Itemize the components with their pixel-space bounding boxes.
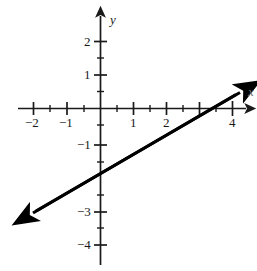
x-axis-label: x [248,85,254,98]
plotted-line-left-arrow [33,95,236,214]
x-tick-label-neg1: −1 [59,116,73,129]
y-tick-label-1: 1 [84,68,91,81]
x-tick-label-2: 2 [163,116,170,129]
x-tick-label-1: 1 [130,116,137,129]
x-tick-label-4: 4 [229,116,236,129]
y-tick-label-neg3: −3 [77,205,91,218]
graph-figure: −2 −1 1 2 4 2 1 −1 −3 −4 y x [0,0,257,271]
y-axis-label: y [110,13,116,26]
y-tick-label-neg4: −4 [77,238,91,251]
y-tick-label-2: 2 [84,35,91,48]
plotted-line-group [33,93,240,214]
y-axis [94,16,107,265]
y-tick-label-neg1: −1 [77,138,91,151]
x-tick-label-neg2: −2 [25,116,39,129]
coordinate-plane-svg [0,0,257,271]
